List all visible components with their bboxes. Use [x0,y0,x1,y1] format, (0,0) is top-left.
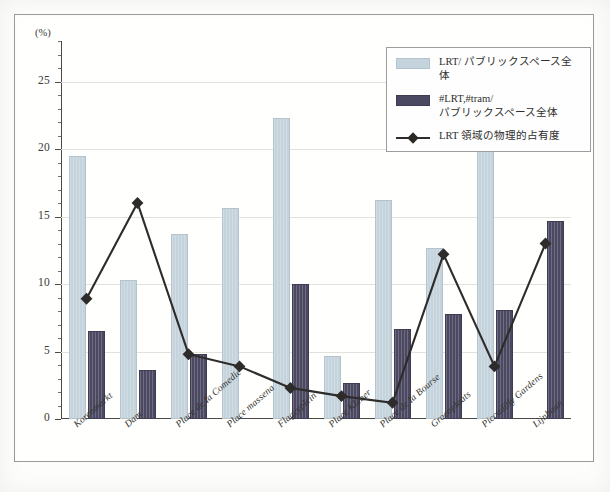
line-marker [284,382,296,394]
y-axis-unit-label: (%) [35,27,51,38]
legend-item-line-series: LRT 領域の物理的占有度 [396,129,582,143]
line-marker [81,293,93,305]
line-marker [183,348,195,360]
legend-label-dark-bar: #LRT,#tram/ パブリックスペース全体 [439,92,558,120]
line-path [87,203,546,403]
line-marker [336,390,348,402]
legend: LRT/ パブリックスペース全体 #LRT,#tram/ パブリックスペース全体… [386,47,591,152]
legend-label-dark-bar-line1: #LRT,#tram/ [439,93,493,104]
line-marker [540,238,552,250]
figure-frame: 0510152025 (%) KorenmarktDamPlace de la … [14,14,594,462]
y-axis-tick-label: 15 [10,209,59,221]
legend-label-light-bar-line1: LRT/ パブリックスペース全体 [439,56,572,81]
y-axis-tick-label: 10 [10,276,59,288]
y-axis-tick-label: 5 [10,344,59,356]
scanned-page: 0510152025 (%) KorenmarktDamPlace de la … [0,0,610,492]
legend-label-light-bar: LRT/ パブリックスペース全体 [439,55,582,83]
y-axis-tick-label: 0 [10,411,59,423]
line-marker [438,248,450,260]
y-axis-tick-label: 25 [10,74,59,86]
legend-label-line-series-line1: LRT 領域の物理的占有度 [439,130,560,141]
line-marker [132,197,144,209]
legend-swatch-light-bar [396,58,430,69]
legend-swatch-line-series [396,132,430,143]
legend-swatch-dark-bar [396,95,430,106]
y-axis-tick-label: 20 [10,141,59,153]
legend-label-line-series: LRT 領域の物理的占有度 [439,129,560,143]
legend-item-dark-bar: #LRT,#tram/ パブリックスペース全体 [396,92,582,120]
x-axis-labels: KorenmarktDamPlace de la ComediePlace ma… [61,421,571,487]
legend-item-light-bar: LRT/ パブリックスペース全体 [396,55,582,83]
legend-label-dark-bar-line2: パブリックスペース全体 [439,106,558,120]
line-marker [489,360,501,372]
